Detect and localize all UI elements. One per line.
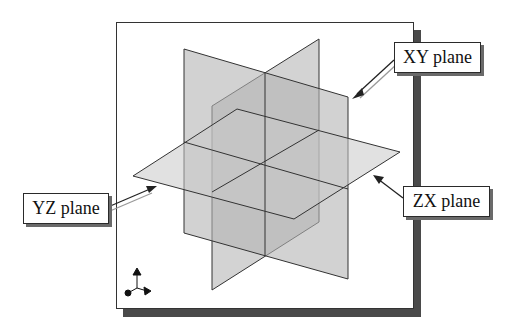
yz-leader-arrow <box>108 186 157 211</box>
xy-plane-label: XY plane <box>394 42 481 73</box>
zx-leader-arrow <box>373 175 403 198</box>
plane-zx[interactable] <box>133 109 400 219</box>
zx-plane-label: ZX plane <box>403 186 490 217</box>
yz-plane-label: YZ plane <box>23 193 109 224</box>
xy-leader-arrow <box>352 60 397 99</box>
coordinate-triad-icon <box>125 268 151 296</box>
